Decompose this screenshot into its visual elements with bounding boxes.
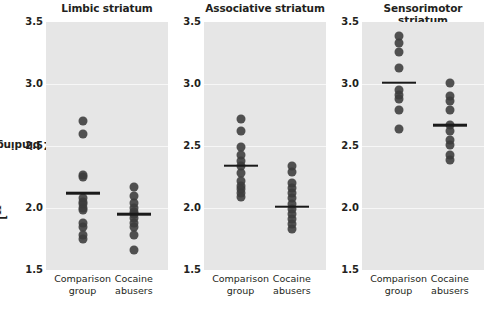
data-point [78, 235, 87, 244]
y-axis-tick-label: 3.5 [333, 17, 359, 27]
data-point [129, 246, 138, 255]
data-point [445, 127, 454, 136]
plot-area [204, 22, 326, 270]
mean-line [275, 205, 309, 208]
mean-line [224, 165, 258, 168]
data-point [78, 117, 87, 126]
data-point [78, 222, 87, 231]
mean-line [66, 192, 100, 195]
data-point [236, 127, 245, 136]
data-point [78, 129, 87, 138]
data-point [78, 206, 87, 215]
y-axis-tick-label: 1.5 [175, 265, 201, 275]
gridline [204, 146, 326, 147]
y-axis-tick-label: 2.5 [333, 141, 359, 151]
y-axis-tick-label: 2.0 [17, 203, 43, 213]
gridline [46, 208, 168, 209]
x-axis-group-label-line2: abusers [95, 285, 173, 297]
data-point [287, 168, 296, 177]
y-axis-tick-label: 3.5 [17, 17, 43, 27]
data-point [129, 222, 138, 231]
data-point [445, 106, 454, 115]
y-axis-tick-label: 2.0 [175, 203, 201, 213]
data-point [445, 155, 454, 164]
mean-line [433, 124, 467, 127]
data-point [394, 47, 403, 56]
data-point [394, 63, 403, 72]
mean-line [117, 213, 151, 216]
gridline [46, 84, 168, 85]
data-point [236, 192, 245, 201]
gridline [362, 146, 484, 147]
x-axis-group-label-line1: Cocaine [411, 273, 487, 285]
x-axis-group-label-line2: abusers [253, 285, 331, 297]
gridline [204, 84, 326, 85]
data-point [394, 106, 403, 115]
gridline [204, 208, 326, 209]
data-point [129, 182, 138, 191]
gridline [362, 208, 484, 209]
data-point [394, 39, 403, 48]
y-axis-tick-label: 3.0 [333, 79, 359, 89]
y-axis-tick-label: 3.0 [17, 79, 43, 89]
plot-area [46, 22, 168, 270]
y-axis-tick-label: 3.5 [175, 17, 201, 27]
x-axis-group-label: Cocaineabusers [253, 273, 331, 296]
y-axis-tick-label: 1.5 [333, 265, 359, 275]
x-axis-group-label-line2: abusers [411, 285, 487, 297]
data-point [129, 231, 138, 240]
panel-title: Limbic striatum [46, 2, 168, 14]
data-point [445, 78, 454, 87]
data-point [78, 173, 87, 182]
gridline [362, 84, 484, 85]
panel-title: Associative striatum [204, 2, 326, 14]
y-axis-tick-label: 2.0 [333, 203, 359, 213]
y-axis-tick-label: 2.5 [175, 141, 201, 151]
data-point [394, 124, 403, 133]
data-point [236, 114, 245, 123]
figure-root: [11C]DTBZ binding potential Limbic stria… [0, 0, 487, 309]
data-point [287, 225, 296, 234]
x-axis-group-label-line1: Cocaine [253, 273, 331, 285]
y-axis-label-superscript: 11 [0, 205, 4, 215]
y-axis-tick-label: 2.5 [17, 141, 43, 151]
data-point [445, 140, 454, 149]
y-axis-tick-label: 3.0 [175, 79, 201, 89]
y-axis-tick-label: 1.5 [17, 265, 43, 275]
mean-line [382, 81, 416, 84]
data-point [445, 97, 454, 106]
data-point [394, 94, 403, 103]
x-axis-group-label-line1: Cocaine [95, 273, 173, 285]
x-axis-group-label: Cocaineabusers [411, 273, 487, 296]
x-axis-group-label: Cocaineabusers [95, 273, 173, 296]
plot-area [362, 22, 484, 270]
y-axis-label: [11C]DTBZ binding potential [0, 22, 16, 270]
gridline [46, 146, 168, 147]
